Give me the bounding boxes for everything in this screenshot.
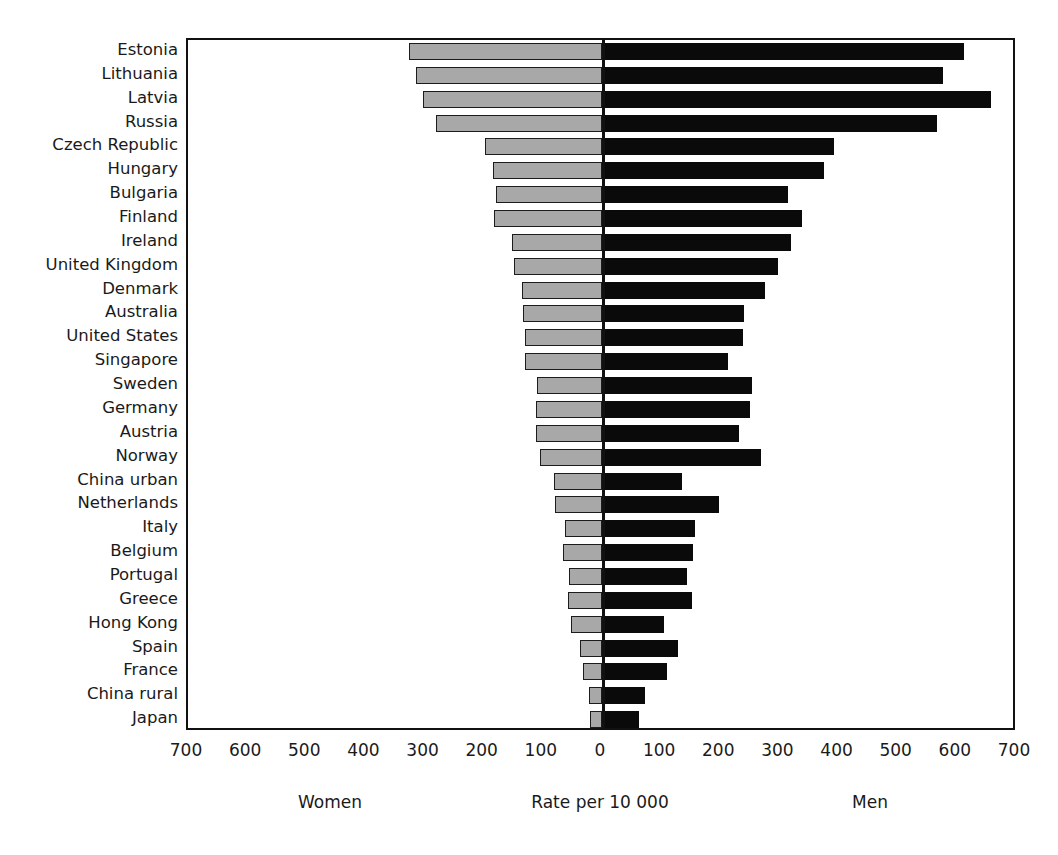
bar-women — [590, 711, 602, 728]
bar-women — [423, 91, 602, 108]
bar-row — [188, 517, 1013, 541]
category-label: Portugal — [0, 563, 178, 587]
bar-men — [602, 544, 693, 561]
bar-women — [525, 329, 602, 346]
bar-men — [602, 616, 664, 633]
bar-men — [602, 43, 964, 60]
bar-row — [188, 159, 1013, 183]
category-label: Czech Republic — [0, 133, 178, 157]
x-tick-label: 300 — [761, 738, 793, 762]
bar-women — [563, 544, 602, 561]
bar-women — [583, 663, 602, 680]
bar-row — [188, 279, 1013, 303]
category-label: Netherlands — [0, 491, 178, 515]
category-label: Hungary — [0, 157, 178, 181]
bar-men — [602, 568, 687, 585]
bar-women — [536, 425, 602, 442]
bar-women — [525, 353, 602, 370]
x-tick-label: 400 — [820, 738, 852, 762]
bar-men — [602, 115, 937, 132]
bar-men — [602, 282, 765, 299]
bar-men — [602, 711, 639, 728]
category-label: Germany — [0, 396, 178, 420]
bar-row — [188, 446, 1013, 470]
category-label: Australia — [0, 300, 178, 324]
bar-women — [580, 640, 602, 657]
category-label: Italy — [0, 515, 178, 539]
category-label: Finland — [0, 205, 178, 229]
bar-men — [602, 473, 682, 490]
bar-women — [571, 616, 602, 633]
category-label: Bulgaria — [0, 181, 178, 205]
category-label: United Kingdom — [0, 253, 178, 277]
category-label: Norway — [0, 444, 178, 468]
bar-men — [602, 663, 667, 680]
x-tick-label: 100 — [525, 738, 557, 762]
bar-row — [188, 422, 1013, 446]
bar-men — [602, 687, 645, 704]
bar-men — [602, 401, 750, 418]
bar-women — [554, 473, 602, 490]
bar-row — [188, 398, 1013, 422]
category-label: Spain — [0, 635, 178, 659]
bar-men — [602, 234, 791, 251]
bar-row — [188, 183, 1013, 207]
category-label: Estonia — [0, 38, 178, 62]
x-tick-label: 300 — [406, 738, 438, 762]
bar-women — [565, 520, 602, 537]
bar-row — [188, 470, 1013, 494]
bar-men — [602, 640, 678, 657]
bar-row — [188, 112, 1013, 136]
caption-women: Women — [298, 790, 362, 814]
bar-women — [409, 43, 602, 60]
bar-row — [188, 684, 1013, 708]
category-label: Hong Kong — [0, 611, 178, 635]
bar-men — [602, 91, 991, 108]
x-tick-label: 100 — [643, 738, 675, 762]
category-label: Belgium — [0, 539, 178, 563]
bar-women — [555, 496, 602, 513]
caption-rate: Rate per 10 000 — [531, 790, 669, 814]
bar-men — [602, 496, 719, 513]
bar-men — [602, 186, 788, 203]
bar-row — [188, 207, 1013, 231]
bar-men — [602, 210, 802, 227]
bar-men — [602, 520, 695, 537]
category-label: Austria — [0, 420, 178, 444]
bar-row — [188, 493, 1013, 517]
bar-row — [188, 708, 1013, 732]
category-label: Denmark — [0, 277, 178, 301]
axis-captions: Women Rate per 10 000 Men — [0, 790, 1058, 818]
bar-men — [602, 353, 728, 370]
bar-women — [416, 67, 602, 84]
bar-women — [536, 401, 602, 418]
x-tick-label: 700 — [998, 738, 1030, 762]
category-label: Japan — [0, 706, 178, 730]
bar-men — [602, 377, 752, 394]
x-tick-label: 0 — [595, 738, 606, 762]
bar-women — [514, 258, 602, 275]
bar-row — [188, 374, 1013, 398]
bar-row — [188, 613, 1013, 637]
bar-men — [602, 67, 943, 84]
bar-row — [188, 541, 1013, 565]
category-label: Singapore — [0, 348, 178, 372]
bar-men — [602, 425, 739, 442]
x-tick-label: 600 — [939, 738, 971, 762]
bar-row — [188, 64, 1013, 88]
category-label: China urban — [0, 468, 178, 492]
bar-row — [188, 255, 1013, 279]
x-tick-label: 500 — [879, 738, 911, 762]
caption-men: Men — [852, 790, 888, 814]
bar-men — [602, 162, 824, 179]
category-label: Ireland — [0, 229, 178, 253]
bar-women — [493, 162, 602, 179]
bar-men — [602, 305, 744, 322]
x-tick-label: 200 — [465, 738, 497, 762]
category-label: Greece — [0, 587, 178, 611]
bar-row — [188, 637, 1013, 661]
chart-figure: EstoniaLithuaniaLatviaRussiaCzech Republ… — [0, 0, 1058, 855]
bar-women — [569, 568, 602, 585]
bar-row — [188, 88, 1013, 112]
category-label: China rural — [0, 682, 178, 706]
